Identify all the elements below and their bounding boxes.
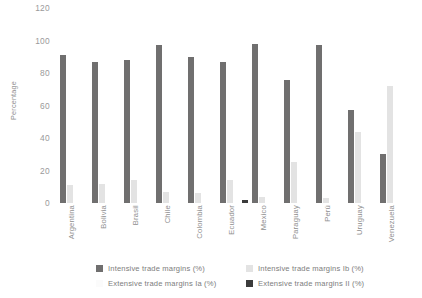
bar-group — [56, 8, 88, 203]
bar[interactable] — [131, 180, 137, 203]
bar[interactable] — [227, 180, 233, 203]
x-axis-tick-label: Argentina — [67, 205, 76, 239]
legend-swatch-icon — [246, 280, 253, 287]
bar-group — [376, 8, 408, 203]
bar[interactable] — [355, 132, 361, 204]
legend-swatch-icon — [96, 280, 103, 287]
legend-item[interactable]: Intensive trade margins (%) — [96, 264, 246, 273]
y-axis-tick-100: 100 — [18, 36, 50, 46]
bar[interactable] — [348, 110, 354, 203]
bar[interactable] — [252, 44, 258, 203]
bar[interactable] — [92, 62, 98, 203]
legend-item[interactable]: Extensive trade margins II (%) — [246, 279, 396, 288]
bar[interactable] — [156, 45, 162, 203]
bar[interactable] — [124, 60, 130, 203]
x-axis-tick-label: Mexico — [259, 205, 268, 230]
bar[interactable] — [99, 184, 105, 204]
bar-group — [248, 8, 280, 203]
bar-group — [280, 8, 312, 203]
bar[interactable] — [323, 198, 329, 203]
legend-item-label: Extensive trade margins Ia (%) — [108, 279, 216, 288]
bar-group — [88, 8, 120, 203]
y-axis-tick-0: 0 — [18, 198, 50, 208]
y-axis-tick-120: 120 — [18, 3, 50, 13]
y-axis-tick-20: 20 — [18, 166, 50, 176]
y-axis-tick-60: 60 — [18, 101, 50, 111]
bar-group — [120, 8, 152, 203]
x-axis-tick-label: Perú — [323, 205, 332, 222]
bar[interactable] — [387, 86, 393, 203]
y-axis-tick-40: 40 — [18, 133, 50, 143]
bar[interactable] — [291, 162, 297, 203]
plot-area — [56, 8, 408, 203]
bar-group — [216, 8, 248, 203]
legend-item-label: Extensive trade margins II (%) — [258, 279, 364, 288]
bar-group — [184, 8, 216, 203]
x-axis-tick-labels: ArgentinaBoliviaBrasilChileColombiaEcuad… — [56, 205, 408, 253]
x-axis-tick-label: Bolivia — [99, 205, 108, 229]
bar[interactable] — [284, 80, 290, 204]
legend-swatch-icon — [96, 265, 103, 272]
chart-legend: Intensive trade margins (%)Intensive tra… — [96, 261, 386, 293]
bar[interactable] — [380, 154, 386, 203]
bar-group — [344, 8, 376, 203]
bar[interactable] — [163, 192, 169, 203]
bar-group — [312, 8, 344, 203]
y-axis-title: Percentage — [9, 66, 18, 136]
legend-item-label: Intensive trade margins (%) — [108, 264, 205, 273]
bar-group — [152, 8, 184, 203]
bar[interactable] — [60, 55, 66, 203]
bar-chart: Percentage 020406080100120 ArgentinaBoli… — [0, 0, 422, 298]
bar[interactable] — [220, 62, 226, 203]
x-axis-tick-label: Brasil — [131, 205, 140, 225]
x-axis-tick-label: Colombia — [195, 205, 204, 239]
bar[interactable] — [242, 200, 248, 203]
legend-item[interactable]: Extensive trade margins Ia (%) — [96, 279, 246, 288]
bar[interactable] — [316, 45, 322, 203]
bar[interactable] — [67, 185, 73, 203]
legend-item[interactable]: Intensive trade margins Ib (%) — [246, 264, 396, 273]
legend-item-label: Intensive trade margins Ib (%) — [258, 264, 364, 273]
legend-swatch-icon — [246, 265, 253, 272]
y-axis-tick-80: 80 — [18, 68, 50, 78]
x-axis-tick-label: Chile — [163, 205, 172, 223]
x-axis-tick-label: Ecuador — [227, 205, 236, 235]
x-axis-tick-label: Venezuela — [387, 205, 396, 242]
x-axis-tick-label: Uruguay — [355, 205, 364, 235]
x-axis-tick-label: Paraguay — [291, 205, 300, 239]
bar[interactable] — [195, 193, 201, 203]
bar[interactable] — [259, 197, 265, 204]
bar[interactable] — [188, 57, 194, 203]
